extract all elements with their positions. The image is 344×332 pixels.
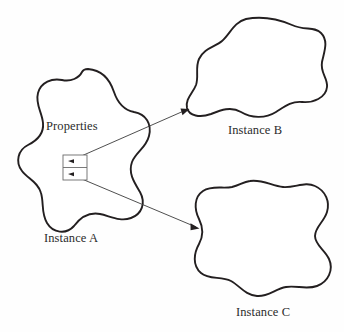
instance-c-label: Instance C: [236, 306, 290, 319]
properties-label: Properties: [46, 120, 98, 133]
instance-b-blob: [187, 18, 327, 117]
instance-a-label: Instance A: [44, 232, 98, 245]
arrow-head-to-c: [191, 223, 200, 230]
instance-b-label: Instance B: [228, 124, 282, 137]
instance-c-blob: [195, 181, 331, 296]
diagram-root: Properties Instance A Instance B Instanc…: [0, 0, 344, 332]
instance-a-blob: [18, 69, 150, 232]
diagram-canvas: [0, 0, 344, 332]
